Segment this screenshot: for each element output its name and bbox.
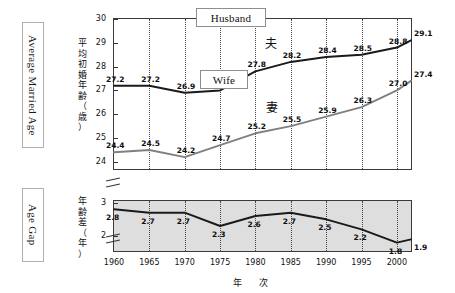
x-tick-label: 1975 — [207, 258, 233, 267]
value-label-age-gap: 2.6 — [247, 220, 260, 229]
y-tick-mark — [114, 114, 118, 115]
y-tick-label: 24 — [90, 157, 106, 166]
y-tick-label: 26 — [90, 109, 106, 118]
value-label-wife: 25.2 — [247, 122, 266, 131]
value-label-age-gap: 1.8 — [389, 247, 402, 256]
value-label-wife: 24.4 — [106, 141, 125, 150]
callout-wife[interactable]: Wife — [200, 70, 248, 89]
x-axis-title: 年 次 — [233, 276, 272, 289]
value-label-husband: 28.4 — [318, 46, 337, 55]
value-label-age-gap: 2.7 — [141, 217, 154, 226]
y-tick-mark — [114, 43, 118, 44]
y-tick-label: 28 — [90, 62, 106, 71]
value-label-husband: 28.2 — [283, 51, 302, 60]
y-tick-label: 30 — [90, 14, 106, 23]
value-label-wife: 26.3 — [354, 96, 373, 105]
x-tick-label: 1985 — [278, 258, 304, 267]
value-label-husband: 26.9 — [177, 82, 196, 91]
value-label-husband: 27.2 — [141, 75, 160, 84]
value-label-husband: 27.8 — [247, 60, 266, 69]
x-tick-label: 1990 — [313, 258, 339, 267]
value-label-age-gap: 2.2 — [354, 233, 367, 242]
value-label-husband: 27.2 — [106, 75, 125, 84]
y-tick-mark — [114, 19, 118, 20]
x-tick-label: 1960 — [101, 258, 127, 267]
x-tick-label: 1970 — [172, 258, 198, 267]
value-label-wife: 25.9 — [318, 106, 337, 115]
value-label-wife: 27.4 — [414, 70, 433, 79]
y-tick-mark — [114, 203, 118, 204]
y-tick-mark — [114, 90, 118, 91]
y-tick-mark — [114, 138, 118, 139]
y-tick-label: 2 — [90, 231, 106, 240]
y-tick-label: 25 — [90, 133, 106, 142]
callout-wife-text: Wife — [213, 74, 235, 86]
value-label-age-gap: 2.7 — [283, 217, 296, 226]
chart-page: Average Married Age Age Gap 平均初婚年齢（歳） 年齢… — [0, 0, 455, 293]
y-tick-mark — [114, 162, 118, 163]
callout-husband-text: Husband — [211, 12, 252, 24]
value-label-husband: 28.5 — [354, 44, 373, 53]
value-label-husband: 28.8 — [389, 37, 408, 46]
value-label-wife: 24.2 — [177, 146, 196, 155]
y-tick-mark — [114, 67, 118, 68]
value-label-age-gap: 2.3 — [212, 230, 225, 239]
y-tick-mark — [114, 236, 118, 237]
callout-husband[interactable]: Husband — [196, 8, 266, 27]
value-label-wife: 24.7 — [212, 134, 231, 143]
series-label-husband-kanji: 夫 — [265, 34, 277, 51]
value-label-husband: 29.1 — [414, 29, 433, 38]
value-label-age-gap: 2.5 — [318, 223, 331, 232]
x-tick-label: 1980 — [242, 258, 268, 267]
y-tick-label: 3 — [90, 198, 106, 207]
value-label-age-gap: 2.8 — [106, 213, 119, 222]
series-label-wife-kanji: 妻 — [266, 98, 278, 115]
value-label-wife: 27.0 — [389, 79, 408, 88]
value-label-wife: 25.5 — [283, 115, 302, 124]
value-label-age-gap: 1.9 — [414, 243, 427, 252]
y-tick-label: 27 — [90, 85, 106, 94]
x-tick-label: 1965 — [136, 258, 162, 267]
y-tick-label: 29 — [90, 38, 106, 47]
x-tick-label: 1995 — [349, 258, 375, 267]
value-label-wife: 24.5 — [141, 139, 160, 148]
value-label-age-gap: 2.7 — [177, 217, 190, 226]
series-overlay — [0, 0, 455, 293]
x-tick-label: 2000 — [384, 258, 410, 267]
